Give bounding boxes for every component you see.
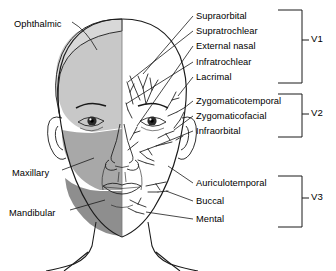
- label-zygomaticotemporal: Zygomaticotemporal: [196, 96, 281, 106]
- maxillary-region: [62, 129, 122, 190]
- nerve-branches: [126, 74, 184, 214]
- label-zygomaticofacial: Zygomaticofacial: [196, 111, 267, 121]
- label-ophthalmic: Ophthalmic: [14, 19, 62, 29]
- leader-infratrochlear: [126, 62, 193, 104]
- label-auriculotemporal: Auriculotemporal: [196, 178, 267, 188]
- division-label-v1: V1: [311, 34, 323, 44]
- label-mandibular: Mandibular: [9, 208, 56, 218]
- leader-infraorbital: [156, 131, 193, 146]
- leader-buccal: [166, 191, 193, 201]
- label-lacrimal: Lacrimal: [196, 72, 232, 82]
- label-supratrochlear: Supratrochlear: [196, 26, 258, 36]
- label-infratrochlear: Infratrochlear: [196, 57, 251, 67]
- bracket-v3: [278, 176, 309, 227]
- label-infraorbital: Infraorbital: [196, 126, 241, 136]
- division-label-v3: V3: [311, 192, 323, 202]
- label-supraorbital: Supraorbital: [196, 11, 247, 21]
- trigeminal-nerve-diagram: [0, 0, 336, 271]
- bracket-v1: [278, 10, 309, 83]
- leader-mental: [146, 212, 193, 219]
- label-buccal: Buccal: [196, 196, 224, 206]
- label-external-nasal: External nasal: [196, 41, 256, 51]
- label-maxillary: Maxillary: [12, 168, 49, 178]
- bracket-v2: [278, 94, 309, 137]
- label-mental: Mental: [196, 214, 224, 224]
- leader-supratrochlear: [128, 31, 193, 82]
- division-brackets: [278, 10, 309, 227]
- division-label-v2: V2: [311, 108, 323, 118]
- leader-auriculotemporal: [168, 166, 193, 183]
